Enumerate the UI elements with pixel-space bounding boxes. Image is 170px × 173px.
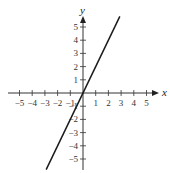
x-tick-label: −3 [40,98,50,108]
y-tick-label: 2 [74,62,79,72]
x-tick-label: 3 [119,98,124,108]
x-tick-label: 2 [106,98,111,108]
x-tick-label: −5 [15,98,25,108]
x-tick-label: 5 [144,98,149,108]
x-tick-label: 4 [132,98,137,108]
x-axis-label: x [161,86,167,98]
y-tick-label: 1 [74,75,79,85]
y-tick-label: −3 [68,128,78,138]
x-tick-label: −2 [53,98,63,108]
y-tick-label: 3 [74,48,79,58]
y-axis-arrow-icon [80,16,86,23]
y-tick-label: −4 [68,141,78,151]
x-axis-arrow-icon [152,90,159,96]
y-tick-label: 5 [74,22,79,32]
y-tick-label: −5 [68,154,78,164]
line-graph: −5−4−3−2−112345−5−4−3−2−112345 x y [0,0,170,173]
y-axis-label: y [79,4,85,16]
y-tick-label: 4 [74,35,79,45]
x-tick-label: −4 [27,98,37,108]
x-tick-label: 1 [93,98,98,108]
